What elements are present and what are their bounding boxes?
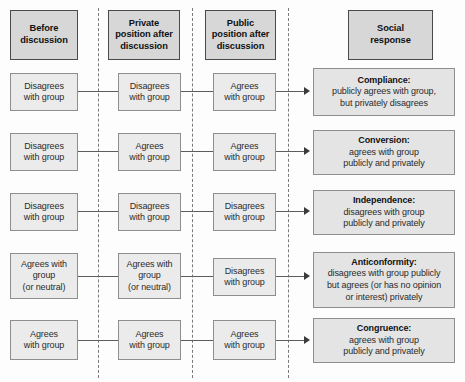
response-title-row-5: Congruence: [357, 323, 411, 335]
response-title-row-2: Conversion: [358, 135, 409, 147]
header-before-discussion-label: Before discussion [20, 23, 68, 46]
cell-before-row-1-label: Disagrees with group [24, 81, 65, 104]
arrow-icon-row-3 [304, 207, 310, 215]
cell-before-row-5-label: Agrees with group [24, 329, 65, 352]
cell-before-row-5: Agrees with group [10, 320, 78, 360]
arrow-icon-row-4 [304, 272, 310, 280]
connector-1-row-5 [78, 340, 118, 341]
cell-public-row-3-label: Disagrees with group [224, 201, 265, 224]
connector-3-row-1 [276, 91, 305, 92]
cell-private-row-1: Disagrees with group [118, 73, 181, 111]
cell-private-row-3-label: Disagrees with group [129, 201, 170, 224]
cell-before-row-1: Disagrees with group [10, 73, 78, 111]
cell-public-row-2: Agrees with group [213, 133, 276, 171]
header-social-response-label: Social response [370, 23, 411, 46]
response-box-row-5: Congruence: agrees with group publicly a… [313, 318, 455, 363]
cell-before-row-3-label: Disagrees with group [24, 201, 65, 224]
connector-3-row-3 [276, 211, 305, 212]
cell-private-row-2: Agrees with group [118, 133, 181, 171]
header-private-position: Private position after discussion [108, 10, 180, 60]
cell-private-row-4-label: Agrees with group (or neutral) [127, 259, 173, 293]
response-box-row-3: Independence: disagrees with group publi… [313, 190, 455, 235]
cell-private-row-5: Agrees with group [118, 320, 181, 360]
connector-3-row-4 [276, 276, 305, 277]
cell-before-row-4-label: Agrees with group (or neutral) [21, 259, 67, 293]
cell-public-row-4: Disagrees with group [213, 258, 276, 296]
cell-before-row-3: Disagrees with group [10, 193, 78, 231]
cell-public-row-5: Agrees with group [213, 320, 276, 360]
cell-private-row-5-label: Agrees with group [129, 329, 170, 352]
connector-2-row-3 [181, 211, 213, 212]
connector-1-row-1 [78, 91, 118, 92]
connector-3-row-2 [276, 151, 305, 152]
cell-public-row-1: Agrees with group [213, 73, 276, 111]
cell-public-row-5-label: Agrees with group [224, 329, 265, 352]
header-public-position-label: Public position after discussion [212, 18, 269, 53]
header-social-response: Social response [348, 10, 433, 60]
column-divider-2 [192, 8, 193, 378]
column-divider-3 [288, 8, 289, 378]
connector-2-row-2 [181, 151, 213, 152]
cell-public-row-2-label: Agrees with group [224, 141, 265, 164]
social-response-diagram: Before discussion Private position after… [0, 0, 465, 382]
cell-private-row-2-label: Agrees with group [129, 141, 170, 164]
cell-private-row-3: Disagrees with group [118, 193, 181, 231]
connector-1-row-3 [78, 211, 118, 212]
response-box-row-1: Compliance: publicly agrees with group, … [313, 68, 455, 116]
cell-before-row-2: Disagrees with group [10, 133, 78, 171]
response-title-row-4: Anticonformity: [351, 257, 417, 269]
response-body-row-2: agrees with group publicly and privately [343, 147, 424, 170]
connector-3-row-5 [276, 340, 305, 341]
response-body-row-5: agrees with group publicly and privately [343, 335, 424, 358]
response-box-row-4: Anticonformity: disagrees with group pub… [313, 252, 455, 308]
cell-public-row-4-label: Disagrees with group [224, 266, 265, 289]
response-title-row-3: Independence: [353, 195, 415, 207]
connector-1-row-4 [78, 276, 118, 277]
column-divider-1 [98, 8, 99, 378]
cell-public-row-3: Disagrees with group [213, 193, 276, 231]
response-box-row-2: Conversion: agrees with group publicly a… [313, 130, 455, 175]
header-public-position: Public position after discussion [205, 10, 276, 60]
connector-2-row-4 [181, 276, 213, 277]
response-body-row-1: publicly agrees with group, but privatel… [332, 86, 436, 109]
response-body-row-3: disagrees with group publicly and privat… [343, 207, 424, 230]
header-private-position-label: Private position after discussion [115, 18, 172, 53]
arrow-icon-row-1 [304, 87, 310, 95]
connector-1-row-2 [78, 151, 118, 152]
response-body-row-4: disagrees with group publicly but agrees… [327, 268, 441, 303]
cell-private-row-1-label: Disagrees with group [129, 81, 170, 104]
cell-public-row-1-label: Agrees with group [224, 81, 265, 104]
connector-2-row-1 [181, 91, 213, 92]
arrow-icon-row-5 [304, 336, 310, 344]
response-title-row-1: Compliance: [358, 75, 411, 87]
header-before-discussion: Before discussion [10, 10, 78, 60]
connector-2-row-5 [181, 340, 213, 341]
arrow-icon-row-2 [304, 147, 310, 155]
cell-before-row-2-label: Disagrees with group [24, 141, 65, 164]
cell-private-row-4: Agrees with group (or neutral) [118, 253, 181, 299]
cell-before-row-4: Agrees with group (or neutral) [10, 253, 78, 299]
